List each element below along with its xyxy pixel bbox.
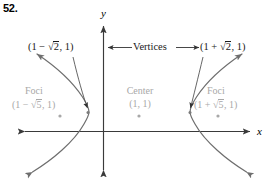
vertex-right-point (189, 111, 192, 114)
vertex-right-open: (1 + (200, 41, 220, 52)
hyperbola-right-branch (190, 54, 247, 172)
vertex-left-label: (1 − √2, 1) (28, 41, 73, 53)
vertex-right-close: , 1) (231, 41, 245, 52)
focus-right-close: , 1) (224, 99, 237, 110)
leader-left-vertex (73, 57, 88, 108)
vertex-left-point (87, 111, 90, 114)
vertex-right-label: (1 + √2, 1) (200, 41, 245, 53)
center-title: Center (120, 86, 160, 97)
focus-left-open: (1 − (12, 99, 31, 110)
focus-left-close: , 1) (42, 99, 55, 110)
vertex-left-open: (1 − (28, 41, 48, 52)
focus-right-label: (1 + √5, 1) (194, 99, 237, 111)
focus-left-point (58, 114, 61, 117)
center-coordinate-label: (1, 1) (120, 99, 160, 110)
hyperbola-left-branch (33, 54, 90, 172)
foci-left-title: Foci (25, 86, 43, 97)
center-point (137, 114, 140, 117)
y-axis-label: y (101, 7, 106, 19)
focus-right-open: (1 + (194, 99, 213, 110)
vertex-left-close: , 1) (59, 41, 73, 52)
focus-right-point (216, 114, 219, 117)
x-axis-label: x (257, 125, 262, 137)
hyperbola-figure: 52. (0, 0, 272, 182)
focus-left-label: (1 − √5, 1) (12, 99, 55, 111)
vertices-title: Vertices (133, 41, 167, 52)
foci-right-title: Foci (207, 86, 225, 97)
